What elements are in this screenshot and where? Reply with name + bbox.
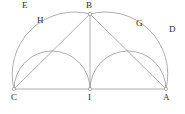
arc-label-G: G [136,19,143,28]
point-label-I: I [88,93,91,102]
arc-H-path [12,12,90,89]
vertex-marker-C [12,87,15,90]
geometry-figure: C I A B E H G D [0,0,185,114]
point-label-A: A [163,93,170,102]
vertex-marker-I [88,87,91,90]
arc-label-D: D [169,25,176,34]
point-label-C: C [11,93,17,102]
segment-BA [90,14,166,89]
geometry-canvas [0,0,185,114]
arc-E-path [14,51,90,89]
arc-D-path [90,51,166,89]
vertex-marker-B [88,12,91,15]
point-label-B: B [86,1,92,10]
segment-CB [14,14,90,89]
figure-caption [0,104,185,114]
arc-label-E: E [22,1,28,10]
arc-G-path [90,12,168,89]
arc-label-H: H [37,16,44,25]
vertex-marker-A [164,87,167,90]
